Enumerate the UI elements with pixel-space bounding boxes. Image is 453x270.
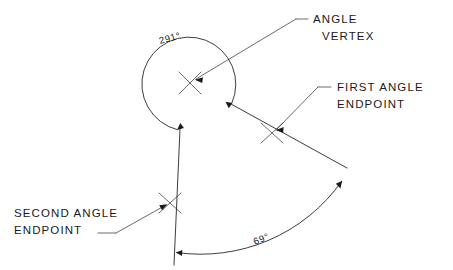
first-angle-endpoint-leader [276,87,331,133]
reflex-arc-arrowhead-second [177,123,184,130]
included-arc-arrowhead-second [176,250,183,256]
first-endpoint-label-line2: ENDPOINT [337,98,405,110]
angle-dimension-diagram: 291° 69° ANGLE VERTEX F [0,0,453,270]
first-angle-ray [231,104,347,168]
angle-vertex-label-line1: ANGLE [313,13,358,25]
included-angle-value: 69° [252,231,271,247]
reflex-angle-value: 291° [158,30,182,46]
second-endpoint-label-line1: SECOND ANGLE [14,207,118,219]
second-endpoint-marker [159,193,181,213]
first-endpoint-label-line1: FIRST ANGLE [337,81,424,93]
first-angle-endpoint-label: FIRST ANGLE ENDPOINT [337,81,424,110]
angle-vertex-leader [195,19,308,83]
reflex-arc-arrowhead-first [226,102,233,108]
angle-vertex-leader-line [196,19,296,79]
angle-vertex-label-line2: VERTEX [322,30,374,42]
vertex-marker [179,72,201,94]
reflex-angle-arc-291 [142,37,236,130]
first-endpoint-leader-line [277,87,318,129]
second-endpoint-label-line2: ENDPOINT [14,224,82,236]
first-endpoint-leader-arrowhead [276,127,284,133]
second-endpoint-leader-line [116,205,166,233]
second-angle-endpoint-label: SECOND ANGLE ENDPOINT [14,207,118,236]
angle-vertex-label: ANGLE VERTEX [313,13,374,42]
reflex-angle-arc-group [142,37,236,130]
angle-vertex-leader-arrowhead [195,77,203,83]
